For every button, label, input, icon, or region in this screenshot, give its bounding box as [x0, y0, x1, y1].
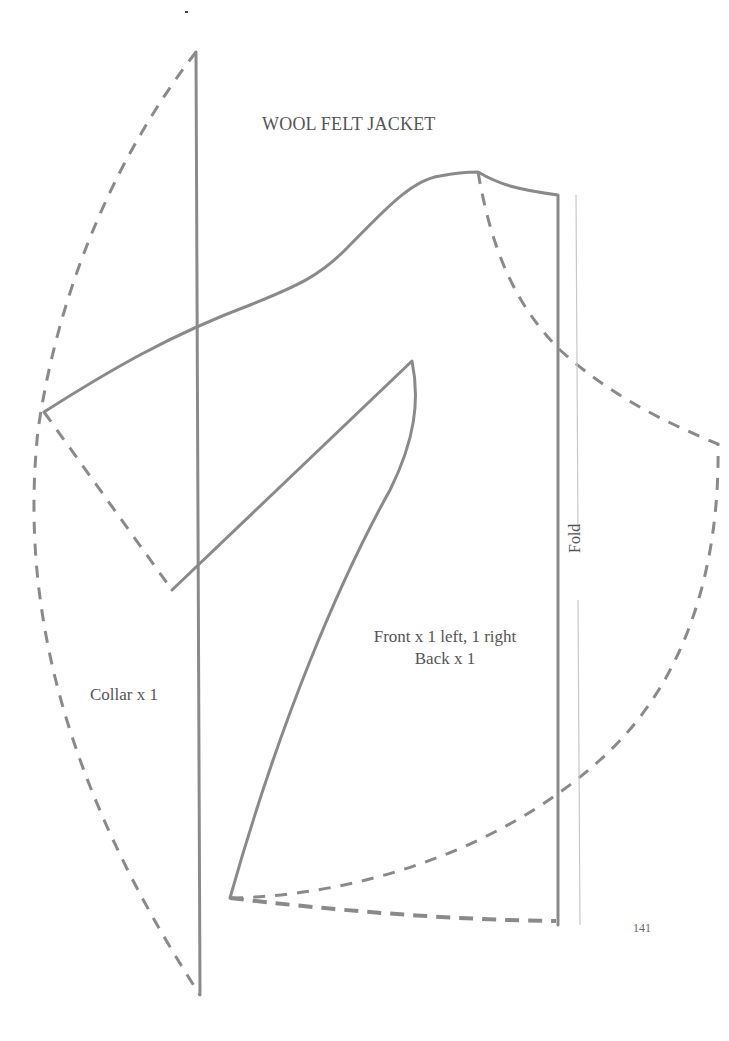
- pattern-diagram: [0, 0, 729, 1041]
- collar-piece-label: Collar x 1: [90, 685, 158, 705]
- fold-line-lower: [578, 600, 580, 925]
- front-label-line: Front x 1 left, 1 right: [350, 626, 540, 648]
- page-number: 141: [633, 921, 651, 936]
- jacket-hem-line: [230, 898, 556, 921]
- front-back-piece-label: Front x 1 left, 1 right Back x 1: [350, 626, 540, 670]
- pattern-title: WOOL FELT JACKET: [262, 114, 436, 135]
- fold-label: Fold: [566, 524, 584, 553]
- collar-straight-edge: [196, 52, 200, 995]
- back-label-line: Back x 1: [350, 648, 540, 670]
- collar-curved-edge: [34, 52, 200, 995]
- pattern-page: WOOL FELT JACKET Front x 1 left, 1 right…: [0, 0, 729, 1041]
- sleeve-cuff-line: [44, 412, 172, 590]
- jacket-outline-upper: [44, 172, 558, 925]
